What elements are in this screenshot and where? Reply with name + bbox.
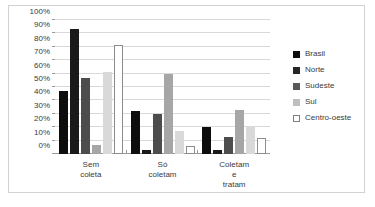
x-axis-category-label: Só coletam	[145, 160, 181, 180]
bar	[81, 78, 90, 154]
legend-label: Sul	[305, 98, 317, 106]
bar	[175, 131, 184, 154]
y-axis-tick-label: 20%	[34, 115, 50, 123]
legend-item: Norte	[293, 62, 363, 78]
y-axis-tick-label: 0%	[38, 142, 50, 150]
bar-group: Coletam e tratam	[198, 20, 270, 154]
bar	[103, 72, 112, 154]
y-axis-tick-label: 50%	[34, 75, 50, 83]
legend-label: Centro-oeste	[305, 114, 351, 122]
x-axis-category-label: Sem coleta	[73, 160, 109, 180]
y-axis-tick-label: 70%	[34, 48, 50, 56]
bar	[142, 150, 151, 154]
y-axis-tick-label: 90%	[34, 21, 50, 29]
y-axis-tick-label: 100%	[30, 8, 50, 16]
bar	[246, 126, 255, 154]
legend-swatch-icon	[293, 115, 300, 122]
legend-swatch-icon	[293, 67, 300, 74]
legend-label: Sudeste	[305, 82, 334, 90]
legend-label: Brasil	[305, 50, 325, 58]
y-axis-tick-label: 10%	[34, 129, 50, 137]
bar	[235, 110, 244, 154]
legend-item: Sul	[293, 94, 363, 110]
x-axis-category-label: Coletam e tratam	[216, 160, 252, 190]
legend-swatch-icon	[293, 99, 300, 106]
bar-groups: Sem coletaSó coletamColetam e tratam	[55, 20, 270, 154]
bar	[224, 137, 233, 154]
bar	[153, 114, 162, 154]
bar	[213, 150, 222, 154]
legend-item: Brasil	[293, 46, 363, 62]
y-axis-tick-label: 30%	[34, 102, 50, 110]
bar	[257, 138, 266, 154]
chart-legend: BrasilNorteSudesteSulCentro-oeste	[293, 46, 363, 126]
legend-item: Centro-oeste	[293, 110, 363, 126]
bar	[131, 111, 140, 154]
legend-label: Norte	[305, 66, 325, 74]
chart-container: 0%10%20%30%40%50%60%70%80%90%100% Sem co…	[8, 5, 365, 193]
y-axis-tick-label: 60%	[34, 62, 50, 70]
legend-item: Sudeste	[293, 78, 363, 94]
bar	[114, 45, 123, 154]
bar-group: Só coletam	[127, 20, 199, 154]
y-axis-tick-label: 40%	[34, 88, 50, 96]
plot-area: 0%10%20%30%40%50%60%70%80%90%100% Sem co…	[55, 20, 270, 154]
bar	[186, 146, 195, 154]
bar	[202, 127, 211, 154]
y-axis-tick-label: 80%	[34, 35, 50, 43]
bar-group: Sem coleta	[55, 20, 127, 154]
legend-swatch-icon	[293, 51, 300, 58]
legend-swatch-icon	[293, 83, 300, 90]
bar	[59, 91, 68, 154]
bar	[92, 145, 101, 154]
bar	[70, 29, 79, 154]
bar	[164, 74, 173, 154]
